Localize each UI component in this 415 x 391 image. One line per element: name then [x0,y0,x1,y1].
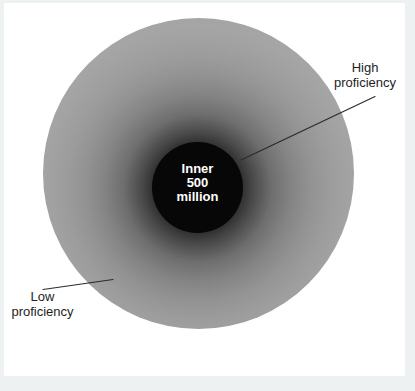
high-proficiency-label-line1: High [315,61,415,76]
inner-circle-label-line1: Inner [177,162,219,176]
inner-circle-label-line2: 500 [177,176,219,190]
high-proficiency-label: High proficiency [315,61,415,90]
low-proficiency-label-line1: Low [0,290,85,305]
low-proficiency-label-line2: proficiency [0,305,85,320]
inner-circle-label-line3: million [177,190,219,204]
high-proficiency-label-line2: proficiency [315,76,415,91]
low-proficiency-label: Low proficiency [0,290,85,319]
inner-circle: Inner 500 million [152,142,243,233]
inner-circle-label: Inner 500 million [177,162,219,204]
